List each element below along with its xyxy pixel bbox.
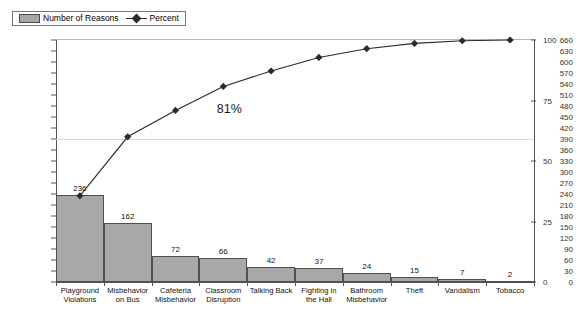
cumulative-percent-line: [0, 0, 583, 319]
percent-data-point-marker: [459, 37, 466, 44]
pareto-chart: Number of Reasons Percent 03060901201501…: [0, 0, 583, 319]
percent-data-point-marker: [268, 67, 275, 74]
percent-data-point-marker: [507, 36, 514, 43]
percent-data-point-marker: [411, 40, 418, 47]
percent-data-point-marker: [172, 107, 179, 114]
percent-data-point-marker: [363, 45, 370, 52]
annotation-81-percent: 81%: [217, 102, 242, 116]
percent-data-point-marker: [220, 83, 227, 90]
percent-data-point-marker: [315, 54, 322, 61]
